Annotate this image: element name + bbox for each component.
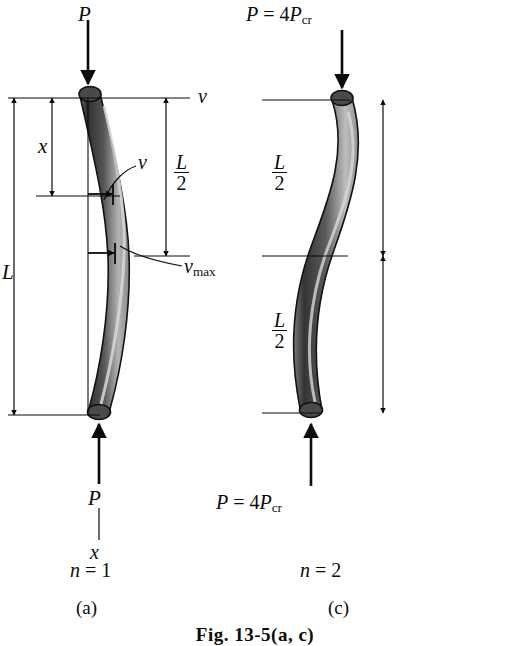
load-top-pcr-c: P [290, 3, 302, 25]
label-L-half-lower-denominator-c: 2 [272, 330, 287, 351]
load-bottom-coefficient-c: 4 [250, 491, 260, 513]
load-top-coefficient-c: 4 [280, 3, 290, 25]
panel-label-c: (c) [328, 598, 349, 617]
mode-equals-a: = [85, 559, 96, 581]
label-dimension-L-half-lower-c: L 2 [272, 310, 287, 352]
label-dimension-L-a: L [2, 262, 14, 283]
label-dimension-L-half-upper-c: L 2 [272, 152, 287, 194]
label-L-half-upper-denominator-c: 2 [272, 172, 287, 193]
label-mode-n-c: n = 2 [300, 560, 341, 580]
mode-value-a: 1 [101, 559, 111, 581]
label-L-half-upper-numerator-c: L [272, 152, 287, 172]
label-deflection-vmax-a: vmax [184, 256, 216, 278]
label-load-bottom-c: P = 4Pcr [216, 492, 282, 514]
label-load-top-c: P = 4Pcr [246, 4, 312, 26]
label-load-top-a: P [78, 4, 91, 25]
panel-label-a: (a) [76, 598, 97, 617]
load-bottom-subscript-c: cr [272, 500, 282, 515]
load-top-symbol-p-c: P [246, 3, 258, 25]
label-L-half-numerator-a: L [174, 152, 189, 172]
label-deflection-v-a: v [138, 152, 147, 172]
load-bottom-pcr-c: P [260, 491, 272, 513]
load-bottom-equals-c: = [233, 491, 244, 513]
label-vmax-subscript-a: max [193, 264, 216, 279]
load-bottom-symbol-p-c: P [216, 491, 228, 513]
label-vmax-base-a: v [184, 255, 193, 277]
mode-value-c: 2 [331, 559, 341, 581]
mode-symbol-n-a: n [70, 559, 80, 581]
label-L-half-denominator-a: 2 [174, 172, 189, 193]
load-top-subscript-c: cr [302, 12, 312, 27]
label-dimension-x-a: x [38, 136, 47, 157]
column-shape-mode-2 [294, 91, 359, 418]
label-mode-n-a: n = 1 [70, 560, 111, 580]
figure-caption: Fig. 13-5(a, c) [0, 624, 510, 646]
mode-symbol-n-c: n [300, 559, 310, 581]
label-L-half-lower-numerator-c: L [272, 310, 287, 330]
label-dimension-L-half-a: L 2 [174, 152, 189, 194]
label-load-bottom-a: P [88, 488, 101, 509]
mode-equals-c: = [315, 559, 326, 581]
load-top-equals-c: = [263, 3, 274, 25]
label-axis-v-a: v [198, 86, 207, 106]
